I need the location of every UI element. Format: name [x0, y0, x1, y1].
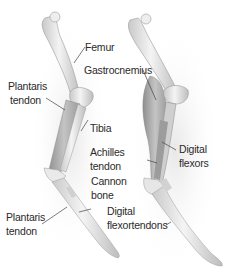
label-digital-flexors-line2: flexors	[179, 157, 209, 169]
right-leg	[128, 14, 222, 275]
label-achilles-tendon-line1: Achilles	[90, 146, 125, 158]
label-digital-flexortendons-line1: Digital	[107, 205, 135, 217]
label-plantaris-tendon-upper-line1: Plantaris	[8, 80, 47, 92]
label-tibia: Tibia	[90, 122, 111, 134]
label-digital-flexortendons-line2: flexortendons	[107, 219, 167, 231]
label-cannon-bone-line2: bone	[91, 189, 114, 201]
label-plantaris-tendon-upper-line2: tendon	[10, 94, 41, 106]
label-achilles-tendon-line2: tendon	[90, 160, 121, 172]
label-plantaris-tendon-lower-line1: Plantaris	[6, 211, 45, 223]
label-plantaris-tendon-lower-line2: tendon	[6, 225, 37, 237]
label-femur: Femur	[85, 41, 114, 53]
label-digital-flexors-line1: Digital	[179, 143, 207, 155]
label-gastrocnemius: Gastrocnemius	[84, 64, 152, 76]
label-cannon-bone-line1: Cannon	[91, 175, 127, 187]
